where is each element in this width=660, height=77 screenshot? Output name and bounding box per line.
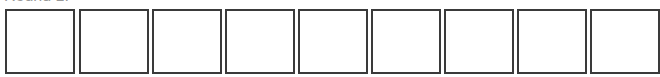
letter-box-1[interactable]	[5, 9, 75, 74]
letter-box-8[interactable]	[517, 9, 587, 74]
letter-box-7[interactable]	[444, 9, 514, 74]
letter-box-6[interactable]	[371, 9, 441, 74]
round-label: Round 1:	[4, 0, 69, 5]
letter-box-9[interactable]	[590, 9, 660, 74]
letter-box-5[interactable]	[298, 9, 368, 74]
letter-box-2[interactable]	[79, 9, 149, 74]
letter-box-3[interactable]	[152, 9, 222, 74]
letter-box-4[interactable]	[225, 9, 295, 74]
